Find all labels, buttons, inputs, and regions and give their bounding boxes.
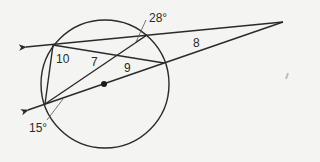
chord-diagonal <box>45 35 147 104</box>
segment-label-8: 8 <box>193 37 200 49</box>
segment-label-10: 10 <box>56 53 69 65</box>
center-dot <box>101 81 107 87</box>
lower-secant <box>28 22 283 110</box>
segment-label-9: 9 <box>124 62 131 74</box>
angle-label-15: 15° <box>29 122 47 134</box>
angle-label-28: 28° <box>149 12 167 24</box>
segment-label-7: 7 <box>91 56 98 68</box>
